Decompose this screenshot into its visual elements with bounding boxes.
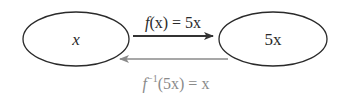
range-node: 5x [219,12,327,66]
function-inverse-diagram: x 5x f(x) = 5x f−1(5x) = x [0,0,341,103]
domain-node: x [23,12,129,66]
domain-label: x [71,30,80,49]
range-label: 5x [265,30,283,49]
range-label-text: 5x [265,30,283,49]
forward-label: f(x) = 5x [145,14,201,32]
inverse-label: f−1(5x) = x [143,73,210,93]
